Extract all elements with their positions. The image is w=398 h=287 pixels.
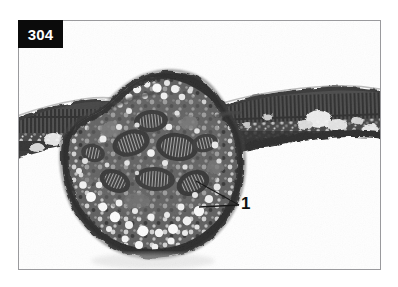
figure-number-badge: 304 (18, 20, 63, 48)
micrograph-svg (19, 21, 380, 269)
micrograph-frame (18, 20, 381, 270)
micrograph-image (19, 21, 380, 269)
figure-panel: 304 1 (0, 0, 398, 287)
annotation-label-1: 1 (241, 195, 250, 212)
